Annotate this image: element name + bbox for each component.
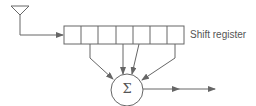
antenna-icon <box>11 6 29 15</box>
output-arrow-icon <box>172 86 180 92</box>
input-connector <box>20 15 63 35</box>
shift-register-label: Shift register <box>190 29 246 40</box>
shift-register-block <box>64 26 184 44</box>
summer-symbol: Σ <box>119 81 135 96</box>
